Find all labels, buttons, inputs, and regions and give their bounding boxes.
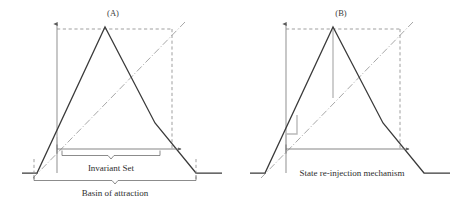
- panel-a: (A) Invariant Set Basin: [22, 8, 222, 198]
- panel-a-invariant-set-label: Invariant Set: [88, 163, 135, 173]
- panel-a-invariant-set-bracket: [62, 151, 160, 160]
- panel-b: (B) State re-injection mechanism: [250, 8, 450, 178]
- figure-container: (A) Invariant Set Basin: [0, 0, 462, 208]
- panel-b-return-map-curve: [250, 27, 450, 173]
- panel-a-title: (A): [107, 8, 119, 18]
- return-map-figure: (A) Invariant Set Basin: [0, 0, 462, 208]
- panel-b-title: (B): [335, 8, 347, 18]
- panel-b-identity-diagonal: [261, 22, 413, 178]
- panel-a-identity-diagonal: [33, 22, 185, 178]
- panel-a-basin-label: Basin of attraction: [82, 188, 149, 198]
- panel-a-return-map-curve: [22, 27, 222, 173]
- panel-a-basin-bracket: [34, 175, 196, 184]
- panel-b-state-reinjection-label: State re-injection mechanism: [300, 168, 405, 178]
